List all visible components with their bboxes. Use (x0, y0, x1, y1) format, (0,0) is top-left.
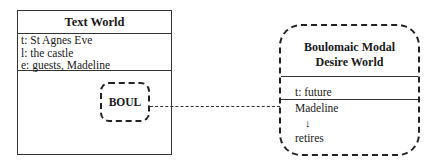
desire-world-title-line1: Boulomaic Modal (281, 40, 418, 55)
divider (281, 76, 418, 77)
desire-entity: Madeline (295, 102, 338, 114)
boulomaic-trigger-box: BOUL (100, 82, 150, 122)
time-builder: t: St Agnes Eve (21, 34, 171, 47)
entities-builder: e: guests, Madeline (21, 59, 171, 72)
desire-time-builder: t: future (295, 86, 332, 98)
location-builder: l: the castle (21, 47, 171, 60)
text-world-box: Text World t: St Agnes Eve l: the castle… (17, 10, 172, 155)
text-world-title: Text World (18, 11, 171, 34)
desire-action: retires (295, 132, 324, 144)
down-arrow-icon: ↓ (305, 117, 311, 129)
desire-world-title-line2: Desire World (281, 55, 418, 70)
divider (281, 99, 418, 100)
desire-world-title: Boulomaic Modal Desire World (281, 40, 418, 70)
desire-world-box: Boulomaic Modal Desire World t: future M… (279, 24, 420, 156)
text-world-world-builders: t: St Agnes Eve l: the castle e: guests,… (18, 33, 171, 71)
world-switch-connector (150, 106, 280, 107)
